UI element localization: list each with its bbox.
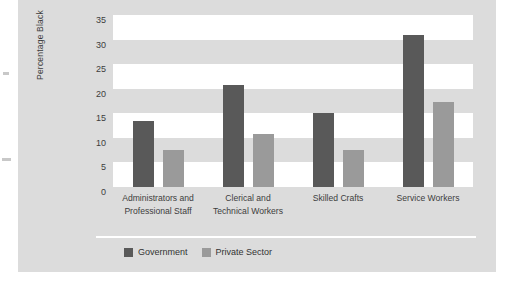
legend-item-private-sector: Private Sector (202, 247, 273, 257)
bar-government (403, 35, 424, 187)
legend-item-government: Government (124, 247, 188, 257)
plot-area: 05101520253035 (113, 15, 473, 187)
x-axis-label-line: Clerical and (225, 193, 270, 203)
bar-group (203, 15, 293, 187)
legend-divider (96, 236, 476, 238)
x-axis-label: Service Workers (370, 192, 486, 205)
x-axis-label-line: Professional Staff (124, 206, 191, 216)
bar-private-sector (253, 134, 274, 187)
bar-government (223, 85, 244, 187)
page-edge-mark (3, 72, 9, 75)
y-axis-title: Percentage Black (35, 0, 45, 105)
chart-page: Percentage Black 05101520253035 Administ… (0, 0, 514, 283)
bar-government (313, 113, 334, 187)
bar-group (293, 15, 383, 187)
x-axis-label-line: Technical Workers (213, 206, 283, 216)
figure-panel: Percentage Black 05101520253035 Administ… (18, 0, 496, 272)
x-axis-label-line: Administrators and (122, 193, 194, 203)
legend-swatch-private-sector (202, 248, 211, 257)
bar-group (113, 15, 203, 187)
page-edge-mark (2, 158, 11, 161)
x-axis-label-line: Skilled Crafts (313, 193, 364, 203)
chart-legend: Government Private Sector (124, 247, 272, 257)
bar-group (383, 15, 473, 187)
x-axis-label-line: Service Workers (397, 193, 460, 203)
legend-label-government: Government (138, 247, 188, 257)
legend-swatch-government (124, 248, 133, 257)
bar-private-sector (343, 150, 364, 187)
bar-private-sector (163, 150, 184, 187)
bar-private-sector (433, 102, 454, 187)
legend-label-private-sector: Private Sector (216, 247, 273, 257)
bar-government (133, 121, 154, 187)
